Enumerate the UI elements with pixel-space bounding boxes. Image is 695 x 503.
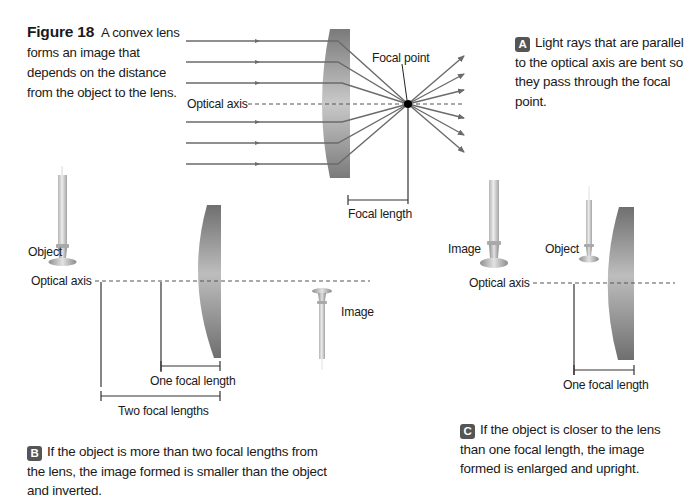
image-label-b: Image [341, 305, 374, 319]
ray-direction-arrows [255, 39, 260, 166]
focal-length-label: Focal length [348, 207, 412, 221]
focal-point-dot [404, 100, 412, 108]
panel-a-description-text: Light rays that are parallel to the opti… [515, 35, 683, 109]
image-label-c: Image [448, 242, 481, 256]
panel-b-description-text: If the object is more than two focal len… [27, 444, 327, 498]
object-label-c: Object [545, 242, 579, 256]
panel-b-badge: B [27, 446, 42, 461]
optical-axis-label-c: Optical axis [469, 276, 530, 290]
panel-a-badge: A [515, 37, 530, 52]
focal-point-label: Focal point [372, 51, 429, 65]
two-focal-lengths-label: Two focal lengths [118, 404, 209, 418]
optical-axis-label-a: Optical axis [187, 97, 248, 111]
optical-axis-label-b: Optical axis [31, 274, 92, 288]
object-candle-c [579, 186, 599, 263]
one-focal-length-label-c: One focal length [563, 378, 649, 392]
panel-c-description-text: If the object is closer to the lens than… [460, 422, 661, 476]
panel-c-description: CIf the object is closer to the lens tha… [460, 420, 680, 479]
image-candle-enlarged [480, 180, 508, 268]
panel-b-diagram [49, 166, 371, 401]
panel-b-description: BIf the object is more than two focal le… [27, 442, 327, 501]
panel-c-badge: C [460, 424, 475, 439]
one-focal-length-label-b: One focal length [150, 374, 236, 388]
panel-a-description: ALight rays that are parallel to the opt… [515, 33, 695, 111]
object-label-b: Object [28, 245, 62, 259]
image-candle-inverted [312, 288, 332, 370]
